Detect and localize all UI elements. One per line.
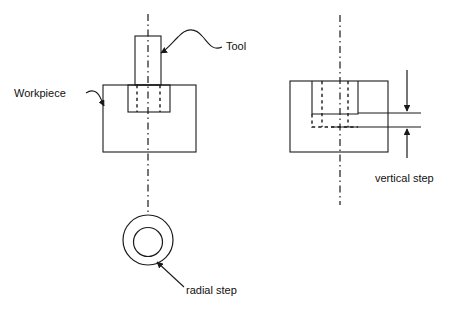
milling-step-figure: Tool Workpiece radial step vertical step <box>0 0 454 317</box>
tool-leader-line <box>161 30 222 53</box>
left-view-group <box>103 14 196 265</box>
top-view-inner-circle <box>134 228 163 257</box>
radial-step-leader-line <box>157 262 184 287</box>
tool-pocket-left <box>128 85 170 112</box>
workpiece-label: Workpiece <box>14 87 66 99</box>
hidden-pocket-right <box>312 114 358 127</box>
tool-label: Tool <box>226 40 246 52</box>
leader-lines-group <box>86 30 222 287</box>
top-view-outer-circle <box>123 215 173 265</box>
workpiece-body-left <box>103 85 196 152</box>
workpiece-body-right <box>290 81 388 152</box>
technical-diagram: Tool Workpiece radial step vertical step <box>0 0 454 317</box>
vertical-step-label: vertical step <box>375 172 434 184</box>
radial-step-label: radial step <box>186 284 237 296</box>
workpiece-leader-line <box>86 91 104 106</box>
tool-pocket-right <box>312 81 358 114</box>
